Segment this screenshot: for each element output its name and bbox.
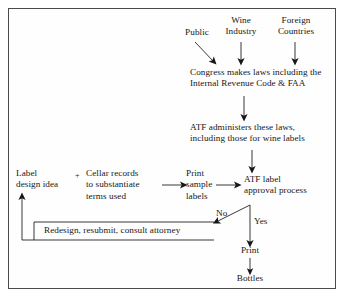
- node-bottles: Bottles: [222, 273, 278, 284]
- node-foreign-countries: Foreign Countries: [268, 15, 324, 38]
- edge-label-no: No: [216, 208, 227, 218]
- flowchart-figure: Public Wine Industry Foreign Countries C…: [0, 0, 352, 307]
- node-atf-label-approval: ATF label approval process: [244, 174, 338, 197]
- node-atf-administers: ATF administers these laws, including th…: [190, 122, 338, 145]
- node-congress: Congress makes laws including the Intern…: [190, 67, 340, 90]
- node-wine-industry: Wine Industry: [216, 15, 266, 38]
- node-print: Print: [228, 245, 272, 256]
- figure-border: [8, 8, 336, 289]
- node-label-design-idea: Label design idea: [16, 168, 74, 191]
- plus-sign: +: [75, 172, 80, 180]
- node-print-sample-labels: Print sample labels: [186, 168, 232, 202]
- node-cellar-records: Cellar records to substantiate terms use…: [86, 168, 162, 202]
- edge-label-yes: Yes: [254, 216, 267, 226]
- node-public: Public: [176, 27, 218, 38]
- node-redesign: Redesign, resubmit, consult attorney: [44, 225, 214, 236]
